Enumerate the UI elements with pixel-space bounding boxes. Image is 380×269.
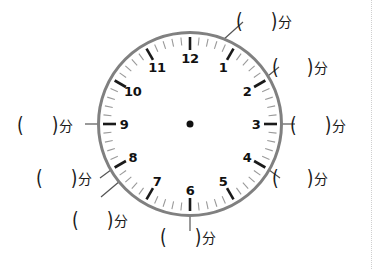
answer-unit-label: 分 (314, 172, 328, 186)
clock-numeral-11: 11 (148, 59, 166, 74)
answer-unit-label: 分 (78, 172, 92, 186)
answer-blank-7-oclock-leader-line (101, 181, 120, 197)
answer-blank-1-oclock[interactable]: ()分 (272, 59, 328, 76)
answer-unit-label: 分 (114, 214, 128, 228)
answer-blank-3-oclock[interactable]: ()分 (290, 117, 346, 134)
answer-paren-open: ( (272, 57, 279, 78)
answer-paren-close: ) (271, 11, 278, 32)
answer-unit-label: 分 (202, 231, 216, 245)
answer-paren-open: ( (17, 115, 24, 136)
answer-paren-open: ( (160, 227, 167, 248)
clock-numeral-3: 3 (252, 117, 261, 132)
clock-numeral-4: 4 (243, 150, 252, 165)
clock-numeral-6: 6 (186, 183, 195, 198)
answer-unit-label: 分 (332, 119, 346, 133)
answer-paren-close: ) (71, 168, 78, 189)
answer-paren-close: ) (325, 115, 332, 136)
clock-numeral-2: 2 (243, 84, 252, 99)
clock-numeral-9: 9 (120, 117, 129, 132)
answer-paren-open: ( (272, 168, 279, 189)
answer-paren-close: ) (107, 210, 114, 231)
answer-blank-10-oclock[interactable]: ()分 (36, 170, 92, 187)
answer-blank-9-oclock[interactable]: ()分 (17, 117, 73, 134)
clock-numeral-1: 1 (219, 59, 228, 74)
clock-numeral-5: 5 (219, 174, 228, 189)
answer-blank-7-oclock[interactable]: ()分 (72, 212, 128, 229)
answer-paren-open: ( (36, 168, 43, 189)
clock-worksheet: 121234567891011 ()分()分()分()分()分()分()分()分 (0, 0, 380, 269)
clock-numeral-10: 10 (124, 84, 142, 99)
answer-paren-close: ) (52, 115, 59, 136)
answer-blank-4-oclock[interactable]: ()分 (272, 170, 328, 187)
answer-unit-label: 分 (314, 61, 328, 75)
answer-unit-label: 分 (278, 15, 292, 29)
answer-paren-close: ) (307, 57, 314, 78)
clock-center-hub (187, 121, 194, 128)
answer-blank-6-oclock[interactable]: ()分 (160, 229, 216, 246)
clock-numeral-12: 12 (181, 51, 199, 66)
answer-paren-open: ( (236, 11, 243, 32)
answer-paren-open: ( (72, 210, 79, 231)
answer-paren-open: ( (290, 115, 297, 136)
clock-numeral-7: 7 (153, 174, 162, 189)
answer-paren-close: ) (307, 168, 314, 189)
clock-numeral-8: 8 (128, 150, 137, 165)
answer-paren-close: ) (195, 227, 202, 248)
answer-blank-12-oclock[interactable]: ()分 (236, 13, 292, 30)
answer-unit-label: 分 (59, 119, 73, 133)
